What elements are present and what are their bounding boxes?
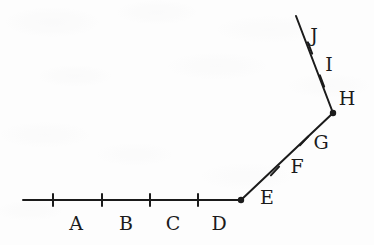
path-segments-group [23, 16, 333, 200]
geometry-figure: ABCDEFGHIJ [0, 0, 374, 245]
point-label-h: H [339, 89, 356, 108]
point-label-j: J [310, 26, 318, 45]
point-label-a: A [69, 214, 83, 233]
diagonal-segment [241, 113, 333, 200]
point-label-i: I [325, 55, 333, 74]
point-label-d: D [211, 214, 226, 233]
vertex-dot-corner-one [238, 197, 244, 203]
point-label-e: E [260, 188, 274, 207]
point-label-f: F [290, 157, 303, 176]
point-label-b: B [119, 214, 133, 233]
tick-marks-group [53, 42, 324, 206]
vertex-dot-corner-two [330, 110, 336, 116]
point-label-g: G [313, 133, 328, 152]
point-label-c: C [166, 214, 181, 233]
tick-6 [300, 137, 308, 146]
